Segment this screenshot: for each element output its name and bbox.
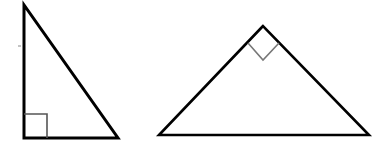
diagram-canvas [0,0,379,162]
